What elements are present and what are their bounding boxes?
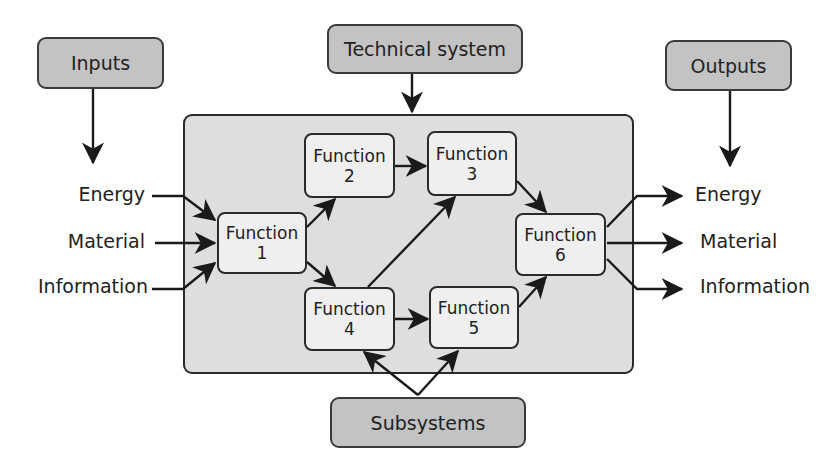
function-1-box: Function 1 <box>217 212 307 274</box>
technical-system-label: Technical system <box>344 38 506 60</box>
outputs-label: Outputs <box>691 55 767 77</box>
function-label: Function <box>524 225 596 245</box>
function-number: 2 <box>344 166 355 186</box>
function-5-box: Function 5 <box>429 286 519 349</box>
function-number: 4 <box>344 319 355 339</box>
inputs-box: Inputs <box>37 37 164 89</box>
function-label: Function <box>226 223 298 243</box>
input-energy-label: Energy <box>78 183 145 205</box>
function-label: Function <box>313 146 385 166</box>
function-label: Function <box>313 299 385 319</box>
function-number: 1 <box>257 243 268 263</box>
inputs-label: Inputs <box>71 52 130 74</box>
function-number: 3 <box>467 164 478 184</box>
output-material-label: Material <box>700 230 777 252</box>
function-4-box: Function 4 <box>304 287 395 351</box>
function-number: 6 <box>555 245 566 265</box>
input-material-label: Material <box>68 230 145 252</box>
output-energy-label: Energy <box>695 183 762 205</box>
technical-system-box: Technical system <box>327 24 523 74</box>
subsystems-box: Subsystems <box>330 397 526 448</box>
function-label: Function <box>438 298 510 318</box>
function-2-box: Function 2 <box>304 133 395 198</box>
function-label: Function <box>436 144 508 164</box>
function-number: 5 <box>469 318 480 338</box>
subsystems-label: Subsystems <box>371 412 486 434</box>
function-3-box: Function 3 <box>427 131 517 196</box>
output-information-label: Information <box>700 275 810 297</box>
outputs-box: Outputs <box>665 40 792 91</box>
input-information-label: Information <box>38 275 148 297</box>
function-6-box: Function 6 <box>515 213 606 276</box>
